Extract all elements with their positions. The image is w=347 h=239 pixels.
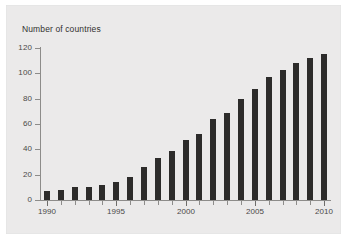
bar	[293, 63, 299, 200]
bar	[86, 187, 92, 200]
x-axis-tick	[255, 201, 256, 206]
x-axis-tick-label: 2010	[315, 207, 333, 216]
bar	[238, 99, 244, 200]
y-axis-line	[40, 47, 41, 201]
bar	[127, 177, 133, 200]
bar	[169, 151, 175, 200]
y-axis-tick	[35, 200, 40, 201]
x-axis-tick	[199, 201, 200, 205]
x-axis-tick	[296, 201, 297, 205]
y-axis-tick	[35, 99, 40, 100]
bar	[210, 119, 216, 200]
y-axis-tick-label: 20	[8, 170, 32, 179]
plot-area: 02040608010012019901995200020052010	[0, 0, 347, 239]
bar	[155, 158, 161, 200]
x-axis-tick	[158, 201, 159, 205]
x-axis-tick	[310, 201, 311, 205]
bar	[307, 58, 313, 200]
x-axis-tick	[61, 201, 62, 205]
x-axis-tick	[89, 201, 90, 205]
bar	[44, 191, 50, 200]
x-axis-tick	[241, 201, 242, 205]
y-axis-tick-label: 60	[8, 119, 32, 128]
bar	[141, 167, 147, 200]
bar	[99, 185, 105, 200]
chart-screenshot: Number of countries 02040608010012019901…	[0, 0, 347, 239]
x-axis-tick	[102, 201, 103, 205]
y-axis-tick-label: 120	[8, 43, 32, 52]
y-axis-tick	[35, 48, 40, 49]
bar	[113, 182, 119, 200]
x-axis-tick	[213, 201, 214, 205]
x-axis-tick	[47, 201, 48, 206]
y-axis-tick	[35, 149, 40, 150]
x-axis-tick-label: 2000	[177, 207, 195, 216]
bar	[58, 190, 64, 200]
bar	[321, 54, 327, 200]
bar	[183, 140, 189, 200]
x-axis-tick	[324, 201, 325, 206]
x-axis-tick-label: 1990	[38, 207, 56, 216]
x-axis-tick	[75, 201, 76, 205]
x-axis-tick	[227, 201, 228, 205]
bar	[224, 113, 230, 200]
bar	[280, 70, 286, 200]
x-axis-tick	[283, 201, 284, 205]
y-axis-tick	[35, 73, 40, 74]
x-axis-tick	[130, 201, 131, 205]
bar	[72, 187, 78, 200]
x-axis-tick	[186, 201, 187, 206]
y-axis-tick-label: 100	[8, 68, 32, 77]
y-axis-tick-label: 0	[8, 195, 32, 204]
x-axis-tick	[144, 201, 145, 205]
bar	[252, 89, 258, 200]
bar	[196, 134, 202, 200]
y-axis-tick	[35, 175, 40, 176]
y-axis-tick-label: 40	[8, 144, 32, 153]
x-axis-tick-label: 2005	[246, 207, 264, 216]
bar	[266, 77, 272, 200]
x-axis-tick	[172, 201, 173, 205]
x-axis-tick-label: 1995	[107, 207, 125, 216]
y-axis-tick	[35, 124, 40, 125]
y-axis-tick-label: 80	[8, 94, 32, 103]
x-axis-tick	[116, 201, 117, 206]
x-axis-tick	[269, 201, 270, 205]
